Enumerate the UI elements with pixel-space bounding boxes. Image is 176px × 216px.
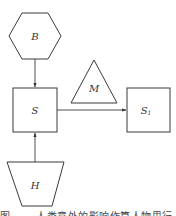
node-b-hexagon: B (9, 13, 61, 59)
node-h-label: H (30, 180, 40, 191)
node-s-box: S (13, 88, 57, 132)
node-s-label: S (32, 105, 39, 116)
node-h-trapezoid: H (7, 162, 64, 206)
node-s1-box: S1 (127, 88, 170, 132)
node-m-label: M (88, 83, 100, 94)
diagram-canvas: B S M S1 H (0, 0, 176, 216)
node-m-triangle: M (71, 60, 117, 103)
node-s1-subscript: 1 (148, 109, 152, 116)
node-b-label: B (30, 31, 38, 42)
figure-caption: 图 . . . 人类意外的影响作算人物思行 (0, 208, 176, 216)
